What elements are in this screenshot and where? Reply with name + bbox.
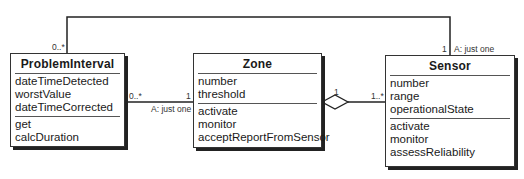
operation: get [15, 118, 120, 131]
attribute: number [198, 75, 317, 88]
operation: monitor [198, 118, 317, 131]
class-name: Zone [194, 54, 321, 73]
multiplicity-sensor-left: 1..* [371, 91, 384, 101]
attribute: number [390, 77, 510, 90]
qualifier-zone-left: A: just one [151, 104, 191, 114]
multiplicity-pi-right: 0..* [129, 91, 142, 101]
class-zone[interactable]: Zone number threshold activate monitor a… [193, 53, 322, 148]
operations-section: activate monitor acceptReportFromSensor [198, 103, 317, 146]
attributes-section: dateTimeDetected worstValue dateTimeCorr… [15, 73, 120, 116]
operation: assessReliability [390, 146, 510, 159]
operation: activate [390, 120, 510, 133]
attribute: threshold [198, 88, 317, 101]
attribute: operationalState [390, 103, 510, 116]
class-problem-interval[interactable]: ProblemInterval dateTimeDetected worstVa… [10, 53, 125, 147]
operation: activate [198, 105, 317, 118]
multiplicity-zone-right: 1 [334, 87, 339, 97]
operation: calcDuration [15, 131, 120, 144]
operation: monitor [390, 133, 510, 146]
attribute: worstValue [15, 88, 120, 101]
attribute: dateTimeCorrected [15, 101, 120, 114]
attribute: dateTimeDetected [15, 75, 120, 88]
attributes-section: number range operationalState [390, 75, 510, 118]
qualifier-sensor-top: A: just one [454, 44, 494, 54]
aggregation-diamond-icon [322, 95, 348, 109]
class-sensor[interactable]: Sensor number range operationalState act… [385, 55, 515, 167]
association-pi-sensor [67, 17, 450, 55]
multiplicity-zone-left: 1 [186, 91, 191, 101]
class-name: ProblemInterval [11, 54, 124, 73]
multiplicity-sensor-top: 1 [442, 44, 447, 54]
attribute: range [390, 90, 510, 103]
operation: acceptReportFromSensor [198, 131, 317, 144]
operations-section: activate monitor assessReliability [390, 118, 510, 161]
operations-section: get calcDuration [15, 116, 120, 146]
multiplicity-pi-top: 0..* [52, 42, 65, 52]
attributes-section: number threshold [198, 73, 317, 103]
class-name: Sensor [386, 56, 514, 75]
